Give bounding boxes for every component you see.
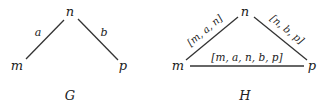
edge-label-b: b: [100, 26, 107, 39]
edge-label-mn: [m, a, n]: [185, 12, 225, 48]
node-m: m: [172, 58, 184, 73]
node-n: n: [241, 4, 249, 19]
node-n: n: [66, 4, 74, 19]
node-m: m: [11, 58, 23, 73]
graph-g: n m p a b G: [11, 4, 128, 103]
edge-label-a: a: [35, 26, 42, 39]
node-p: p: [119, 58, 128, 73]
graph-h: n m p [m, a, n] [n, b, p] [m, a, n, b, p…: [172, 4, 317, 103]
graph-name-g: G: [65, 88, 75, 103]
graph-name-h: H: [238, 88, 251, 103]
diagram: n m p a b G n m p [m, a, n] [n, b, p] [m…: [0, 0, 328, 108]
edge-label-np: [n, b, p]: [268, 12, 306, 46]
edge-m-n: [26, 20, 64, 59]
node-p: p: [308, 58, 317, 73]
edge-label-mp: [m, a, n, b, p]: [211, 51, 283, 63]
edge-n-p: [78, 19, 118, 60]
